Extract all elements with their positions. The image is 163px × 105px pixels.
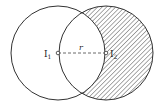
center-point-2 [104,51,108,55]
center-label-1: I1 [44,49,51,60]
center-point-1 [56,51,60,55]
overlap-diagram: I1 I2 r [0,0,163,105]
